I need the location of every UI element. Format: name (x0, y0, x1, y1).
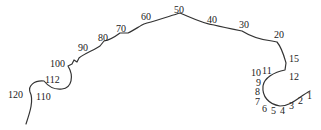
label-11: 11 (262, 66, 272, 76)
label-110: 110 (36, 92, 51, 102)
label-12: 12 (289, 72, 299, 82)
label-30: 30 (239, 20, 249, 30)
label-10: 10 (251, 68, 261, 78)
label-120: 120 (8, 90, 23, 100)
label-80: 80 (98, 33, 108, 43)
label-50: 50 (174, 5, 184, 15)
label-8: 8 (255, 87, 260, 97)
label-20: 20 (274, 30, 284, 40)
label-112: 112 (45, 75, 60, 85)
label-100: 100 (50, 59, 65, 69)
label-3: 3 (289, 101, 294, 111)
label-90: 90 (78, 43, 88, 53)
label-1: 1 (307, 91, 312, 101)
label-70: 70 (116, 24, 126, 34)
label-4: 4 (280, 106, 285, 116)
label-5: 5 (271, 106, 276, 116)
label-40: 40 (207, 15, 217, 25)
label-15: 15 (289, 54, 299, 64)
label-2: 2 (298, 96, 303, 106)
numbered-curve-diagram: 1 2 3 4 5 6 7 8 9 10 11 12 15 20 30 40 5… (0, 0, 321, 130)
label-60: 60 (141, 12, 151, 22)
label-9: 9 (256, 78, 261, 88)
label-7: 7 (255, 97, 260, 107)
label-6: 6 (262, 104, 267, 114)
